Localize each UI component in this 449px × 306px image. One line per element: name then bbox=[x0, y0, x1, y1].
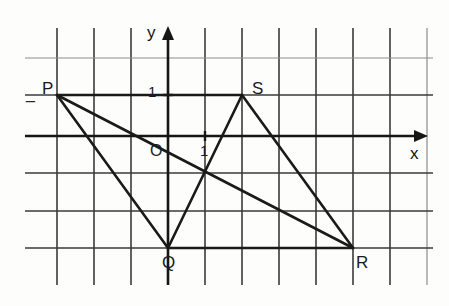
vertex-label-s: S bbox=[252, 80, 264, 97]
coordinate-plane-svg bbox=[0, 0, 449, 306]
segment-PQ bbox=[57, 95, 168, 248]
horizontal-grid-lines bbox=[25, 58, 433, 248]
negative-axis-tick: _ bbox=[26, 86, 35, 102]
vertical-grid-lines bbox=[57, 28, 427, 285]
y-unit-label: 1 bbox=[148, 84, 156, 99]
segment-SR bbox=[242, 95, 353, 248]
y-axis-label: y bbox=[147, 24, 156, 41]
x-axis-label: x bbox=[410, 145, 419, 162]
vertex-label-q: Q bbox=[162, 254, 175, 271]
vertex-label-p: P bbox=[42, 80, 54, 97]
origin-label: O bbox=[150, 143, 162, 159]
x-unit-label: 1 bbox=[200, 143, 208, 158]
vertex-label-r: R bbox=[356, 254, 368, 271]
coordinate-figure: _ P S Q R y x O 1 1 bbox=[0, 0, 449, 306]
